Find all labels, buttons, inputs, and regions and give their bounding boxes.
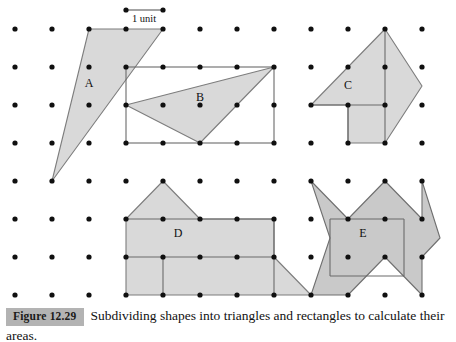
grid-dot [49,102,54,107]
grid-dot [419,102,424,107]
grid-dot [234,140,239,145]
grid-dot [308,64,313,69]
grid-dot [345,292,350,297]
grid-dot [86,102,91,107]
grid-dot [160,178,165,183]
grid-dot [160,254,165,259]
grid-dot [197,178,202,183]
grid-dot [12,254,17,259]
grid-dot [308,140,313,145]
grid-dot [197,140,202,145]
grid-dot [49,292,54,297]
grid-dot [49,26,54,31]
grid-dot [382,216,387,221]
grid-dot [382,64,387,69]
grid-dot [419,216,424,221]
grid-dot [308,254,313,259]
grid-dot [345,216,350,221]
grid-dot [49,64,54,69]
shape-e-label: E [359,226,366,240]
shape-c-polygon [311,29,422,143]
shape-c-label: C [344,78,352,92]
shape-d-label: D [174,226,183,240]
grid-dot [123,26,128,31]
grid-dot [49,140,54,145]
geometry-figure: 1 unit A B C D E [0,0,456,342]
grid-dot [382,102,387,107]
grid-dot [345,102,350,107]
grid-dot [12,102,17,107]
grid-dot [123,254,128,259]
grid-dot [197,26,202,31]
grid-dot [234,254,239,259]
figure-caption-row: Figure 12.29Subdividing shapes into tria… [0,306,456,342]
grid-dot [123,102,128,107]
grid-dot [271,26,276,31]
grid-dot [86,140,91,145]
grid-dot [49,178,54,183]
grid-dot [12,178,17,183]
shapes-layer [52,29,440,295]
grid-dot [86,216,91,221]
grid-dot [86,26,91,31]
grid-dot [123,178,128,183]
grid-dot [123,64,128,69]
grid-dot [382,254,387,259]
grid-dot [160,216,165,221]
grid-dot [12,140,17,145]
grid-dot [271,216,276,221]
grid-dot [345,254,350,259]
grid-dot [234,102,239,107]
grid-dot [271,292,276,297]
grid-dot [86,292,91,297]
grid-dot [271,254,276,259]
grid-dot [160,292,165,297]
shape-d-polygon [126,181,311,295]
grid-dot [160,26,165,31]
grid-dot [345,140,350,145]
grid-dot [382,178,387,183]
grid-dot [382,292,387,297]
grid-dot [419,64,424,69]
grid-dot [419,26,424,31]
grid-dot [271,102,276,107]
grid-dot [382,140,387,145]
grid-dot [234,216,239,221]
grid-dot [160,102,165,107]
grid-dot [49,216,54,221]
shape-d [126,181,311,295]
grid-dot [12,26,17,31]
grid-dot [197,216,202,221]
grid-dot [419,178,424,183]
grid-dot [308,178,313,183]
grid-dot [271,64,276,69]
grid-dot [12,216,17,221]
shape-e [311,181,440,295]
grid-dot [197,64,202,69]
shape-c [311,29,422,143]
grid-dot [345,178,350,183]
grid-dot [234,26,239,31]
grid-dot [308,102,313,107]
grid-dot [234,178,239,183]
grid-dot [234,292,239,297]
grid-dot [197,292,202,297]
grid-dot [419,254,424,259]
grid-dot [12,292,17,297]
scale-bar-left-dot [123,7,128,12]
figure-number-badge: Figure 12.29 [6,308,84,326]
grid-dot [419,292,424,297]
grid-dot [160,140,165,145]
grid-dot [160,64,165,69]
figure-caption-block: Figure 12.29Subdividing shapes into tria… [6,306,452,342]
grid-dot [12,64,17,69]
grid-dot [123,140,128,145]
grid-dot [234,64,239,69]
grid-dot [197,254,202,259]
grid-dot [308,216,313,221]
grid-dot [345,64,350,69]
shape-b-label: B [196,90,204,104]
scale-bar-right-dot [160,7,165,12]
grid-dot [308,292,313,297]
grid-dot [123,216,128,221]
